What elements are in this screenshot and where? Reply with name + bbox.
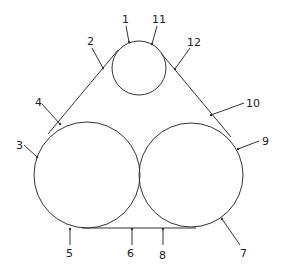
reference-label-9: 9	[262, 135, 269, 148]
belt-left-tangent	[48, 50, 118, 134]
leader-arrow-icon	[210, 114, 212, 116]
belt-right-tangent	[161, 53, 231, 137]
leader-line-11	[152, 26, 157, 44]
reference-label-7: 7	[240, 247, 247, 260]
leader-line-10	[211, 103, 244, 115]
belt-pulley-diagram: 111212410395687	[0, 0, 286, 271]
leader-arrow-icon	[69, 228, 71, 230]
leader-arrow-icon	[151, 43, 153, 45]
leader-line-1	[126, 26, 129, 42]
leader-arrow-icon	[162, 228, 164, 230]
leader-line-4	[42, 104, 60, 124]
leader-arrow-icon	[128, 41, 130, 43]
reference-label-8: 8	[159, 249, 166, 262]
reference-label-6: 6	[127, 247, 134, 260]
leader-line-12	[175, 48, 190, 69]
pulley-right	[139, 123, 243, 227]
leader-arrow-icon	[59, 123, 61, 125]
reference-label-12: 12	[187, 36, 201, 49]
reference-label-2: 2	[87, 35, 94, 48]
leader-line-9	[238, 141, 259, 149]
reference-label-10: 10	[246, 97, 260, 110]
diagram-drawing: 111212410395687	[0, 0, 286, 271]
leader-arrow-icon	[174, 68, 176, 70]
reference-label-11: 11	[152, 13, 166, 26]
leader-arrow-icon	[131, 228, 133, 230]
leader-arrow-icon	[102, 67, 104, 69]
reference-label-4: 4	[35, 96, 42, 109]
leader-line-2	[92, 48, 103, 68]
pulley-top	[112, 41, 166, 95]
reference-label-3: 3	[16, 139, 23, 152]
leader-arrow-icon	[36, 156, 38, 158]
leader-line-7	[222, 219, 240, 245]
reference-label-5: 5	[66, 247, 73, 260]
leader-arrow-icon	[237, 148, 239, 150]
pulley-left	[34, 122, 140, 228]
leader-arrow-icon	[221, 218, 223, 220]
leader-line-3	[24, 145, 37, 157]
reference-label-1: 1	[122, 13, 129, 26]
